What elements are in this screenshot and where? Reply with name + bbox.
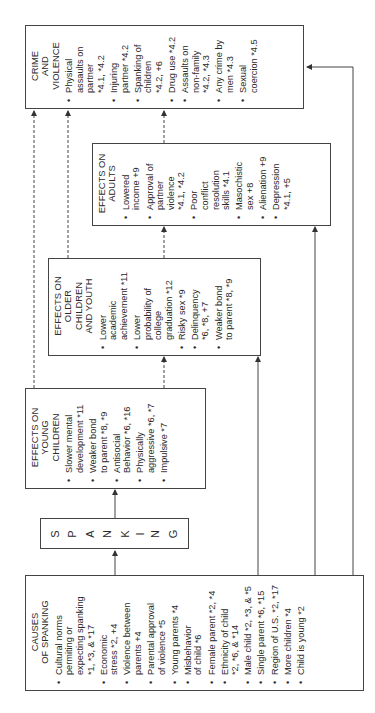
list-item: Lower academic achievement *11 [98, 262, 130, 350]
list-item: Violence between parents +4 [122, 579, 143, 685]
list-item: Cultural norms permiting or expecting sp… [54, 579, 96, 685]
list-item: Injuring partner *4.2 [109, 29, 130, 103]
causes-title: CAUSES OF SPANKING [30, 579, 51, 685]
list-item: Poor conflict resolution skills *4.1 [189, 147, 231, 220]
list-item: Parental approval of violence *5 [146, 579, 167, 685]
spanking-letter: S [49, 530, 61, 537]
list-item: Child is young *2 [296, 579, 307, 685]
list-item: Slower mental development *11 [64, 392, 85, 483]
list-item: Alienation +9 [258, 147, 269, 220]
list-item: Any crime by men *4.3 [214, 29, 235, 103]
list-item: Single parent *6, *15 [256, 579, 267, 685]
list-item: Misbehavior of child *6 [183, 579, 204, 685]
list-item: More children *4 [283, 579, 294, 685]
list-item: Lowered income +9 [121, 147, 142, 220]
list-item: Risky sex *9 [177, 262, 188, 350]
spanking-letter: N [149, 530, 161, 538]
causes-list: Cultural norms permiting or expecting sp… [54, 579, 306, 685]
list-item: Region of U.S. *2, *17 [270, 579, 281, 685]
crime-violence-list: Physical assaults on partner *4.1, *4.2 … [64, 29, 259, 103]
list-item: Physically aggressive *6, *7 [135, 392, 156, 483]
crime-violence-title: CRIME AND VIOLENCE [30, 29, 61, 103]
list-item: Delinquency *6, *8, +7 [190, 262, 211, 350]
spanking-letter: N [101, 530, 113, 538]
list-item: Young parents *4 [170, 579, 181, 685]
list-item: Weaker bond to parent *8, *9 [88, 392, 109, 483]
causes-of-spanking-box: CAUSES OF SPANKING Cultural norms permit… [25, 575, 364, 691]
spanking-letter: I [134, 532, 146, 535]
list-item: Economic stress *2, +4 [99, 579, 120, 685]
list-item: Spanking of children *4.2, +6 [133, 29, 165, 103]
list-item: Sexual coercion *4.5 [238, 29, 259, 103]
list-item: Drug use *4.2 [167, 29, 178, 103]
list-item: Impulsive *7 [159, 392, 170, 483]
effects-older-children-title: EFFECTS ON OLDER CHILDREN AND YOUTH [53, 262, 95, 350]
effects-young-children-title: EFFECTS ON YOUNG CHILDREN [30, 392, 61, 483]
crime-violence-box: CRIME AND VIOLENCE Physical assaults on … [25, 25, 304, 109]
effects-adults-box: EFFECTS ON ADULTS Lowered income +9 Appr… [92, 143, 331, 226]
list-item: Assaults on non-family *4.2, *4.3 [180, 29, 212, 103]
spanking-letter: G [168, 529, 180, 538]
list-item: Lower probability of college graduation … [132, 262, 174, 350]
list-item: Female parent *2, *4 [207, 579, 218, 685]
list-item: Antisocial Behavior *6, *16 [112, 392, 133, 483]
spanking-letter: P [66, 530, 78, 537]
spanking-box: S P A N K I N G [40, 518, 189, 549]
spanking-letter: A [83, 530, 95, 537]
list-item: Weaker bond to parent *8, *9 [214, 262, 235, 350]
effects-older-children-list: Lower academic achievement *11 Lower pro… [98, 262, 235, 350]
effects-adults-title: EFFECTS ON ADULTS [97, 147, 118, 220]
spanking-letter: K [119, 530, 131, 537]
list-item: Masochistic sex +8 [234, 147, 255, 220]
effects-young-children-list: Slower mental development *11 Weaker bon… [64, 392, 169, 483]
list-item: Approval of partner violence *4.1, *4.2 [145, 147, 187, 220]
list-item: Male child *2, *3, & *5 [243, 579, 254, 685]
effects-adults-list: Lowered income +9 Approval of partner vi… [121, 147, 292, 220]
effects-older-children-box: EFFECTS ON OLDER CHILDREN AND YOUTH Lowe… [48, 258, 261, 356]
list-item: Physical assaults on partner *4.1, *4.2 [64, 29, 106, 103]
list-item: Ethnicity of child *2, *6, & *14 [220, 579, 241, 685]
effects-young-children-box: EFFECTS ON YOUNG CHILDREN Slower mental … [25, 388, 206, 489]
list-item: Depression *4.1, +5 [271, 147, 292, 220]
